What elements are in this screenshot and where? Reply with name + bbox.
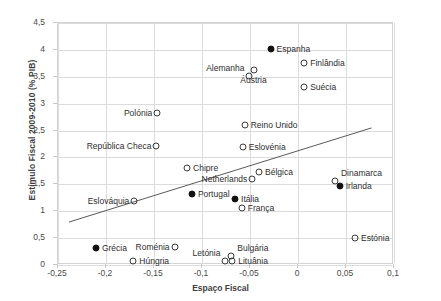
data-point[interactable] — [256, 168, 263, 175]
x-tick-label: 0,1 — [373, 268, 413, 278]
data-point-label: Dinamarca — [341, 168, 382, 178]
x-tick-label: 0 — [277, 268, 317, 278]
x-tick-mark — [105, 264, 106, 268]
x-tick-label: -0,05 — [229, 268, 269, 278]
data-point-label: Eslovénia — [249, 142, 286, 152]
data-point-label: Roménia — [136, 242, 170, 252]
data-point[interactable] — [336, 183, 343, 190]
y-tick-label: 4 — [5, 44, 45, 54]
data-point[interactable] — [130, 258, 137, 265]
data-point[interactable] — [239, 143, 246, 150]
data-point[interactable] — [251, 67, 258, 74]
data-point-label: Reino Unido — [251, 120, 298, 130]
data-point[interactable] — [238, 204, 245, 211]
data-point-label: Polónia — [124, 108, 152, 118]
data-point[interactable] — [301, 60, 308, 67]
data-point[interactable] — [171, 243, 178, 250]
data-point-label: Finlândia — [310, 58, 345, 68]
y-tick-label: 1 — [5, 205, 45, 215]
x-tick-mark — [201, 264, 202, 268]
data-point[interactable] — [154, 110, 161, 117]
data-point-label: Alemanha — [206, 63, 244, 73]
x-tick-label: -0,1 — [181, 268, 221, 278]
data-point[interactable] — [241, 122, 248, 129]
x-tick-label: -0,25 — [37, 268, 77, 278]
data-point-label: Netherlands — [202, 174, 248, 184]
data-point-label: Estónia — [361, 233, 389, 243]
data-point[interactable] — [352, 235, 359, 242]
data-point[interactable] — [232, 196, 239, 203]
scatter-chart: Estímulo Fiscal 2009-2010 (% PIB) Espaço… — [0, 0, 441, 301]
x-tick-label: -0,15 — [133, 268, 173, 278]
x-tick-label: -0,2 — [85, 268, 125, 278]
data-point-label: Irlanda — [346, 181, 372, 191]
y-tick-label: 3 — [5, 98, 45, 108]
data-point-label: Bulgária — [237, 243, 268, 253]
data-point-label: Letónia — [193, 248, 221, 258]
x-tick-label: 0,05 — [325, 268, 365, 278]
gridline-vertical — [394, 23, 395, 263]
x-tick-mark — [297, 264, 298, 268]
data-point-label: República Checa — [87, 141, 152, 151]
y-tick-label: 0,5 — [5, 232, 45, 242]
data-point-label: Chipre — [193, 163, 218, 173]
data-point[interactable] — [229, 257, 236, 264]
data-point-label: Bélgica — [265, 167, 293, 177]
data-point[interactable] — [92, 244, 99, 251]
data-point-label: Suécia — [310, 82, 336, 92]
x-tick-mark — [57, 264, 58, 268]
data-point-label: Espanha — [277, 44, 311, 54]
gridline-horizontal — [58, 265, 392, 266]
data-point[interactable] — [188, 191, 195, 198]
y-tick-label: 2,5 — [5, 125, 45, 135]
data-point[interactable] — [267, 45, 274, 52]
data-point[interactable] — [301, 83, 308, 90]
y-tick-label: 1,5 — [5, 178, 45, 188]
data-point[interactable] — [249, 176, 256, 183]
data-point-label: Lituânia — [238, 256, 268, 266]
data-point-label: Grécia — [102, 243, 127, 253]
x-tick-mark — [393, 264, 394, 268]
data-point-label: Áustria — [240, 75, 266, 85]
x-tick-mark — [345, 264, 346, 268]
data-point[interactable] — [184, 165, 191, 172]
x-axis-title: Espaço Fiscal — [0, 283, 441, 293]
data-point-label: Portugal — [198, 189, 230, 199]
data-point[interactable] — [131, 197, 138, 204]
y-tick-label: 3,5 — [5, 71, 45, 81]
data-point-label: Húngria — [139, 256, 169, 266]
data-point-label: França — [248, 203, 274, 213]
y-tick-label: 2 — [5, 151, 45, 161]
data-point-label: Eslováquia — [88, 196, 130, 206]
y-tick-label: 4,5 — [5, 17, 45, 27]
data-point[interactable] — [153, 142, 160, 149]
